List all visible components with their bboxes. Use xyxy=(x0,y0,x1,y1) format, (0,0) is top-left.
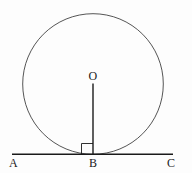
geometry-diagram: O A B C xyxy=(0,0,192,173)
right-angle-marker xyxy=(82,144,94,155)
label-b: B xyxy=(89,156,97,170)
label-c: C xyxy=(167,156,175,170)
diagram-svg: O A B C xyxy=(0,0,192,173)
label-o: O xyxy=(89,69,98,83)
label-a: A xyxy=(9,156,18,170)
